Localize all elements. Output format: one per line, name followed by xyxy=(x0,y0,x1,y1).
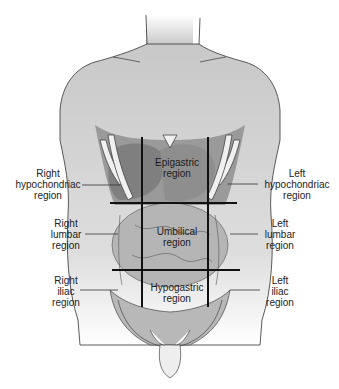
label-line: iliac xyxy=(46,286,86,297)
label-line: hypochondriac xyxy=(257,179,337,190)
label-line: region xyxy=(148,237,206,248)
label-line: region xyxy=(257,190,337,201)
label-line: Right xyxy=(44,218,88,229)
label-line: region xyxy=(44,240,88,251)
hypogastric-region-label: Hypogastric region xyxy=(146,282,208,304)
label-line: Hypogastric xyxy=(146,282,208,293)
label-line: Umbilical xyxy=(148,226,206,237)
label-line: region xyxy=(260,297,300,308)
umbilical-region-label: Umbilical region xyxy=(148,226,206,248)
label-line: Right xyxy=(8,168,88,179)
right-hypochondriac-label: Right hypochondriac region xyxy=(8,168,88,201)
right-iliac-label: Right iliac region xyxy=(46,275,86,308)
label-line: region xyxy=(46,297,86,308)
label-line: lumbar xyxy=(44,229,88,240)
label-line: lumbar xyxy=(258,229,302,240)
label-line: Left xyxy=(260,275,300,286)
left-hypochondriac-label: Left hypochondriac region xyxy=(257,168,337,201)
left-lumbar-label: Left lumbar region xyxy=(258,218,302,251)
left-iliac-label: Left iliac region xyxy=(260,275,300,308)
abdominal-regions-diagram: Epigastric region Umbilical region Hypog… xyxy=(0,0,339,389)
label-line: region xyxy=(146,293,208,304)
label-line: region xyxy=(148,168,206,179)
label-line: iliac xyxy=(260,286,300,297)
label-line: Epigastric xyxy=(148,157,206,168)
label-line: Left xyxy=(257,168,337,179)
label-line: region xyxy=(8,190,88,201)
label-line: region xyxy=(258,240,302,251)
label-line: Left xyxy=(258,218,302,229)
epigastric-region-label: Epigastric region xyxy=(148,157,206,179)
label-line: Right xyxy=(46,275,86,286)
right-lumbar-label: Right lumbar region xyxy=(44,218,88,251)
label-line: hypochondriac xyxy=(8,179,88,190)
